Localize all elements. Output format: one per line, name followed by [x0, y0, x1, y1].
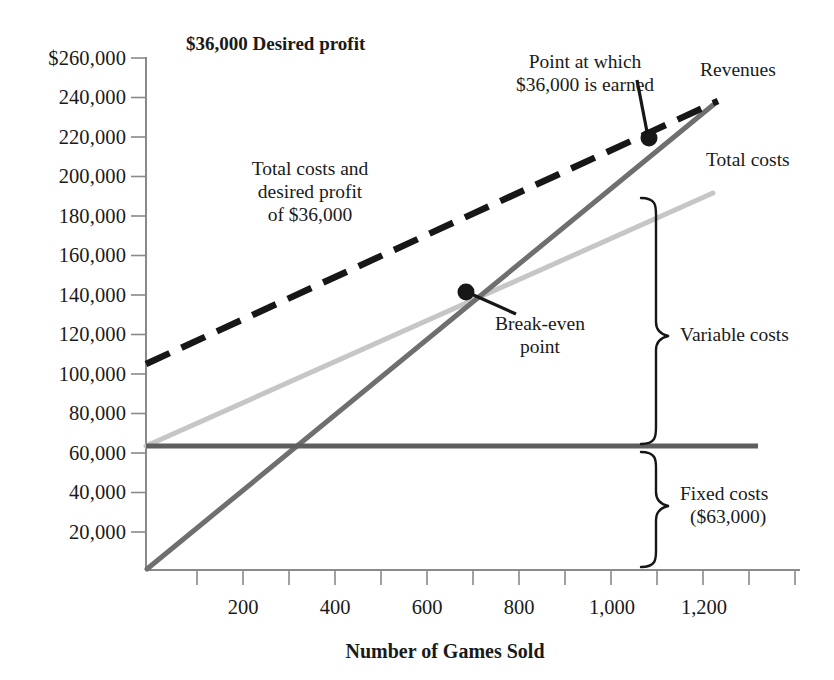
variable-costs-brace [641, 198, 668, 444]
y-tick-label-140000: 140,000 [0, 283, 126, 307]
x-tick-label-800: 800 [469, 595, 569, 619]
fixed-costs-brace [641, 452, 668, 567]
total-costs-plus-profit-dashed-line [146, 101, 718, 364]
cvp-break-even-chart: $36,000 Desired profit $260,000 240,000 … [0, 0, 834, 680]
x-tick-label-400: 400 [285, 595, 385, 619]
annotation-break-even-line1: Break-even [450, 312, 630, 335]
y-tick-label-100000: 100,000 [0, 362, 126, 386]
y-tick-label-180000: 180,000 [0, 204, 126, 228]
brace-label-fixed-costs-line1: Fixed costs [680, 482, 768, 505]
annotation-break-even-line2: point [450, 335, 630, 358]
annotation-total-costs-profit-line1: Total costs and [200, 157, 420, 180]
y-tick-label-240000: 240,000 [0, 85, 126, 109]
y-axis-ticks [131, 58, 146, 532]
x-tick-label-1200: 1,200 [649, 595, 759, 619]
annotation-desired-profit-line1: Point at which [470, 50, 700, 73]
y-tick-label-260000: $260,000 [0, 46, 126, 70]
y-tick-label-40000: 40,000 [0, 480, 126, 504]
brace-label-fixed-costs-line2: ($63,000) [690, 505, 766, 528]
y-tick-label-60000: 60,000 [0, 441, 126, 465]
brace-label-variable-costs: Variable costs [680, 323, 789, 346]
y-tick-label-120000: 120,000 [0, 322, 126, 346]
annotation-total-costs-profit-line3: of $36,000 [200, 203, 420, 226]
annotation-total-costs-profit-line2: desired profit [200, 180, 420, 203]
break-even-point-dot [458, 284, 475, 301]
series-label-total-costs: Total costs [706, 148, 790, 171]
series-label-revenues: Revenues [700, 58, 776, 81]
y-tick-label-160000: 160,000 [0, 243, 126, 267]
y-tick-label-200000: 200,000 [0, 164, 126, 188]
x-axis-title: Number of Games Sold [295, 640, 595, 664]
y-tick-label-220000: 220,000 [0, 125, 126, 149]
annotation-desired-profit-line2: $36,000 is earned [470, 73, 700, 96]
chart-title: $36,000 Desired profit [186, 33, 365, 55]
x-tick-label-200: 200 [193, 595, 293, 619]
y-tick-label-80000: 80,000 [0, 401, 126, 425]
x-tick-label-600: 600 [377, 595, 477, 619]
y-tick-label-20000: 20,000 [0, 520, 126, 544]
x-axis-ticks [197, 570, 795, 585]
desired-profit-point-dot [641, 130, 658, 147]
